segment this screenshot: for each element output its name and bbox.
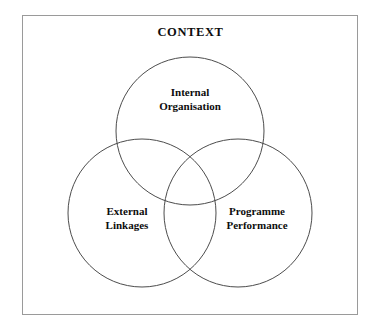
label-internal-organisation-line2: Organisation (120, 100, 260, 114)
label-external-linkages-line2: Linkages (72, 219, 182, 233)
label-internal-organisation-line1: Internal (120, 86, 260, 100)
venn-circles-group (0, 0, 381, 333)
label-external-linkages: External Linkages (72, 205, 182, 232)
label-internal-organisation: Internal Organisation (120, 86, 260, 113)
circle-internal-organisation (116, 57, 264, 205)
label-programme-performance: Programme Performance (184, 205, 330, 232)
label-programme-performance-line1: Programme (184, 205, 330, 219)
label-external-linkages-line1: External (72, 205, 182, 219)
label-programme-performance-line2: Performance (184, 219, 330, 233)
venn-diagram: CONTEXT Internal Organisation External L… (0, 0, 381, 333)
